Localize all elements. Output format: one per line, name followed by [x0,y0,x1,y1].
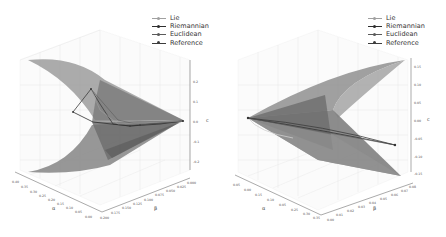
svg-text:-0.10: -0.10 [414,155,422,159]
svg-text:0.07: 0.07 [401,189,408,193]
svg-text:0.00: 0.00 [85,215,92,219]
legend-item-reference: Reference [152,39,209,47]
svg-text:0.10: 0.10 [414,83,421,87]
svg-text:0.30: 0.30 [303,212,310,216]
legend-item-riemannian: Riemannian [152,22,209,30]
svg-text:0.125: 0.125 [133,202,142,206]
svg-text:β: β [154,205,157,212]
svg-text:0.30: 0.30 [30,190,37,194]
reference-line-icon [368,39,382,47]
svg-text:0.0: 0.0 [193,120,198,124]
svg-text:0.05: 0.05 [414,101,421,105]
svg-text:c: c [206,117,209,123]
svg-text:0.15: 0.15 [57,202,64,206]
svg-text:0.40: 0.40 [12,180,19,184]
svg-text:0.175: 0.175 [111,211,120,215]
svg-text:-0.1: -0.1 [193,140,199,144]
svg-text:0.00: 0.00 [244,188,251,192]
svg-text:α: α [262,205,266,211]
legend-item-reference: Reference [368,39,425,47]
svg-text:0.08: 0.08 [409,185,416,189]
left-z-ticks: 0.2 0.1 0.0 -0.1 -0.2 c [193,80,209,164]
svg-text:0.00: 0.00 [414,119,421,123]
legend-label: Lie [386,14,395,22]
svg-text:α: α [52,205,56,211]
legend-item-lie: Lie [368,14,425,22]
svg-text:0.02: 0.02 [347,209,354,213]
legend-item-euclidean: Euclidean [152,30,209,38]
svg-text:β: β [373,205,376,212]
svg-text:0.25: 0.25 [291,208,298,212]
svg-text:0.10: 0.10 [66,206,73,210]
riemannian-line-icon [152,22,166,30]
svg-text:0.1: 0.1 [193,100,198,104]
svg-text:0.06: 0.06 [391,193,398,197]
svg-text:0.05: 0.05 [279,203,286,207]
svg-text:0.15: 0.15 [255,193,262,197]
svg-text:0.01: 0.01 [336,213,343,217]
euclidean-line-icon [152,30,166,38]
svg-text:0.03: 0.03 [358,205,365,209]
svg-text:0.025: 0.025 [177,185,186,189]
svg-text:-0.15: -0.15 [414,172,422,176]
legend-label: Lie [170,14,179,22]
svg-text:0.2: 0.2 [193,80,198,84]
svg-text:0.200: 0.200 [100,216,109,220]
euclidean-line-icon [368,30,382,38]
svg-text:0.00: 0.00 [327,218,334,222]
legend-label: Riemannian [170,22,209,30]
svg-text:0.35: 0.35 [313,216,320,220]
svg-text:0.35: 0.35 [21,185,28,189]
lie-line-icon [368,14,382,22]
left-legend: Lie Riemannian Euclidean Reference [152,14,209,47]
svg-text:-0.2: -0.2 [193,160,199,164]
svg-text:0.150: 0.150 [122,206,131,210]
svg-text:-0.05: -0.05 [414,137,422,141]
riemannian-line-icon [368,22,382,30]
reference-line-icon [152,39,166,47]
left-3d-plot: 0.2 0.1 0.0 -0.1 -0.2 c 0.40 0.35 0.30 0… [0,0,223,237]
svg-text:0.15: 0.15 [414,65,421,69]
svg-text:0.20: 0.20 [48,198,55,202]
legend-label: Riemannian [386,22,425,30]
svg-text:0.000: 0.000 [187,181,196,185]
svg-text:0.05: 0.05 [380,197,387,201]
right-z-ticks: 0.15 0.10 0.05 0.00 -0.05 -0.10 -0.15 c [414,65,430,176]
svg-text:c: c [427,116,430,122]
svg-text:0.05: 0.05 [75,210,82,214]
svg-text:0.100: 0.100 [144,198,153,202]
svg-text:0.05: 0.05 [233,183,240,187]
legend-label: Euclidean [170,30,202,38]
legend-item-euclidean: Euclidean [368,30,425,38]
lie-line-icon [152,14,166,22]
legend-label: Euclidean [386,30,418,38]
right-legend: Lie Riemannian Euclidean Reference [368,14,425,47]
svg-text:0.075: 0.075 [155,193,164,197]
right-3d-plot: 0.15 0.10 0.05 0.00 -0.05 -0.10 -0.15 c … [223,0,446,237]
svg-text:0.10: 0.10 [267,198,274,202]
svg-text:0.050: 0.050 [166,189,175,193]
legend-label: Reference [386,39,419,47]
legend-item-riemannian: Riemannian [368,22,425,30]
legend-label: Reference [170,39,203,47]
legend-item-lie: Lie [152,14,209,22]
svg-text:0.25: 0.25 [39,194,46,198]
